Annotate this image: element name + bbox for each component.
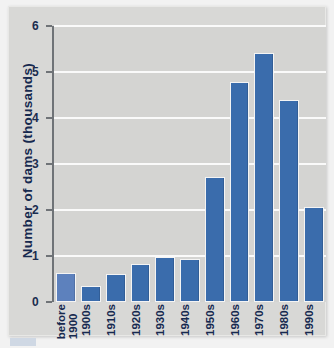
y-tick-label: 0	[32, 296, 39, 308]
bar	[131, 264, 151, 302]
bar	[106, 274, 126, 302]
x-axis-label-line: 1980s	[279, 304, 291, 336]
x-axis-label-line: 1930s	[155, 304, 167, 336]
bar	[279, 100, 299, 302]
figure: Number of dams (thousands) 0123456 befor…	[0, 0, 334, 348]
y-tick-label: 4	[32, 112, 39, 124]
x-axis-label: 1900s	[81, 304, 101, 336]
bar	[155, 257, 175, 302]
x-axis-label: 1950s	[205, 304, 225, 336]
y-tick-label: 6	[32, 20, 39, 32]
bar	[205, 177, 225, 302]
y-tick-label: 5	[32, 66, 39, 78]
y-tick-label: 2	[32, 204, 39, 216]
y-tick-label: 3	[32, 158, 39, 170]
bar	[81, 286, 101, 302]
x-axis-label: 1910s	[106, 304, 126, 336]
x-axis-label-line: 1900s	[81, 304, 93, 336]
x-axis-label-line: 1940s	[180, 304, 192, 336]
bar	[304, 207, 324, 302]
corner-tag	[10, 338, 36, 346]
y-tick-mark	[46, 117, 52, 119]
y-tick-label: 1	[32, 250, 39, 262]
bar	[230, 82, 250, 302]
plot-area	[54, 26, 326, 302]
x-axis-label-line: 1990s	[304, 304, 316, 336]
y-tick-mark	[46, 209, 52, 211]
x-axis-label: 1920s	[131, 304, 151, 336]
x-axis-label: 1970s	[254, 304, 274, 336]
x-axis-label-line: 1920s	[131, 304, 143, 336]
plot-wrapper: Number of dams (thousands) 0123456 befor…	[48, 20, 334, 342]
y-tick-mark	[46, 255, 52, 257]
x-axis-label: 1990s	[304, 304, 324, 336]
bar	[180, 259, 200, 302]
gridline	[54, 71, 326, 73]
x-axis-labels: before19001900s1910s1920s1930s1940s1950s…	[54, 304, 326, 348]
gridline	[54, 25, 326, 27]
y-tick-mark	[46, 71, 52, 73]
x-axis-label-line: 1900	[68, 304, 80, 339]
x-axis-label: 1930s	[155, 304, 175, 336]
x-axis-label-line: 1950s	[205, 304, 217, 336]
chart-frame: Number of dams (thousands) 0123456 befor…	[8, 6, 326, 336]
x-axis-label: before1900	[56, 304, 76, 339]
bar	[56, 273, 76, 302]
x-axis-label: 1940s	[180, 304, 200, 336]
bar	[254, 53, 274, 302]
x-axis-label-line: 1960s	[230, 304, 242, 336]
y-tick-mark	[46, 163, 52, 165]
x-axis-label-line: 1910s	[106, 304, 118, 336]
y-tick-mark	[46, 301, 52, 303]
x-axis-label: 1960s	[230, 304, 250, 336]
y-tick-mark	[46, 25, 52, 27]
x-axis-label-line: 1970s	[254, 304, 266, 336]
x-axis-label: 1980s	[279, 304, 299, 336]
